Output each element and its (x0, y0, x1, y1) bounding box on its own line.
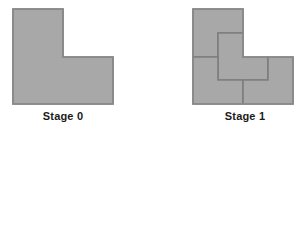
stage-0-label: Stage 0 (0, 109, 126, 123)
stage-1-label: Stage 1 (182, 109, 308, 123)
